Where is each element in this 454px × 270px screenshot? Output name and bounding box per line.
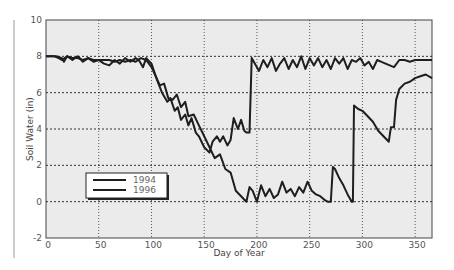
x-tick-label: 50 (95, 240, 107, 250)
y-axis-label: Soil Water (in) (25, 97, 35, 161)
x-tick-label: 0 (45, 240, 51, 250)
x-tick-label: 250 (303, 240, 320, 250)
soil-water-chart: -20246810 050100150200250300350 Day of Y… (0, 0, 454, 270)
x-axis-label: Day of Year (213, 248, 265, 258)
x-tick-label: 100 (145, 240, 162, 250)
legend-label-1994: 1994 (133, 175, 156, 185)
y-tick-label: 2 (36, 160, 42, 170)
x-tick-label: 300 (356, 240, 373, 250)
y-tick-label: 0 (36, 197, 42, 207)
y-tick-label: 6 (36, 88, 42, 98)
y-tick-label: 10 (31, 15, 43, 25)
y-tick-label: 8 (36, 51, 42, 61)
legend-label-1996: 1996 (133, 185, 156, 195)
x-tick-label: 350 (409, 240, 426, 250)
y-tick-label: 4 (36, 124, 42, 134)
legend: 1994 1996 (86, 173, 169, 200)
y-tick-label: -2 (33, 233, 42, 243)
